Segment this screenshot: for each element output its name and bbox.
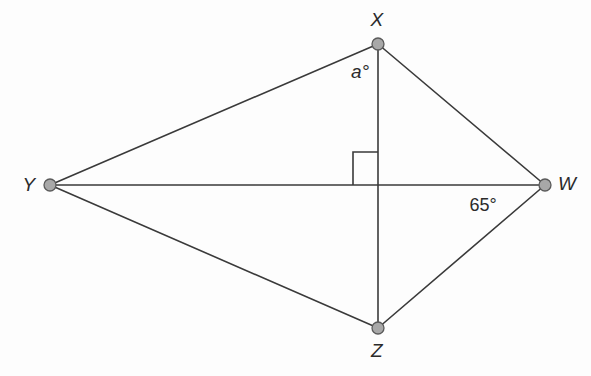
vertex-label-X: X	[371, 9, 384, 31]
vertex-label-Y: Y	[23, 174, 36, 196]
vertex-dot-X	[372, 38, 384, 50]
vertex-dot-Y	[44, 179, 56, 191]
angle-label-65: 65°	[469, 195, 496, 216]
right-angle-square-icon	[353, 152, 378, 185]
figure-canvas	[0, 0, 591, 376]
edge-Z-Y	[50, 185, 378, 328]
angle-label-a: a°	[351, 61, 369, 83]
edge-X-W	[378, 44, 545, 185]
geometry-figure: X Y W Z a° 65°	[0, 0, 591, 376]
edge-W-Z	[378, 185, 545, 328]
vertex-dot-W	[539, 179, 551, 191]
edge-Y-X	[50, 44, 378, 185]
vertex-dot-Z	[372, 322, 384, 334]
vertex-label-W: W	[558, 173, 576, 195]
vertex-label-Z: Z	[371, 340, 383, 362]
